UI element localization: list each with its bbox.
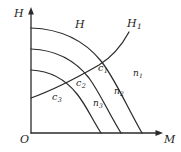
head-axis-arrowhead xyxy=(28,7,34,15)
head-family-label: H xyxy=(75,19,85,30)
speed-label-n2-subscript: 2 xyxy=(120,90,124,97)
figure-canvas xyxy=(0,0,181,152)
pump-characteristic-figure: H M O H H1 c1 c2 c3 n1 n2 n3 xyxy=(0,0,181,152)
intersection-label-c1-subscript: 1 xyxy=(104,67,108,75)
speed-label-n1: n1 xyxy=(133,69,143,78)
intersection-label-c2-subscript: 2 xyxy=(82,82,86,90)
speed-label-n2-base: n xyxy=(114,86,120,96)
intersection-label-c1-base: c xyxy=(98,62,103,73)
intersection-label-c2-base: c xyxy=(76,77,81,88)
origin-label: O xyxy=(20,134,29,145)
curve-n2 xyxy=(31,49,121,133)
curve-n1 xyxy=(31,28,142,133)
speed-label-n3-base: n xyxy=(93,98,99,108)
intersection-label-c3-base: c xyxy=(52,91,57,102)
head-axis-label: H xyxy=(14,8,24,19)
system-curve-label-subscript: 1 xyxy=(137,22,142,31)
speed-label-n3: n3 xyxy=(93,99,103,108)
speed-label-n1-base: n xyxy=(133,68,139,78)
system-curve-label: H1 xyxy=(127,18,141,29)
flow-axis-label: M xyxy=(164,134,175,145)
intersection-label-c2: c2 xyxy=(76,78,85,88)
intersection-label-c3-subscript: 3 xyxy=(58,96,62,104)
speed-label-n1-subscript: 1 xyxy=(139,72,143,79)
flow-axis xyxy=(31,130,163,136)
intersection-label-c3: c3 xyxy=(52,92,61,102)
system-curve-label-base: H xyxy=(127,17,137,30)
speed-label-n2: n2 xyxy=(114,87,124,96)
flow-axis-arrowhead xyxy=(156,130,164,136)
intersection-label-c1: c1 xyxy=(98,63,107,73)
speed-label-n3-subscript: 3 xyxy=(99,102,103,109)
